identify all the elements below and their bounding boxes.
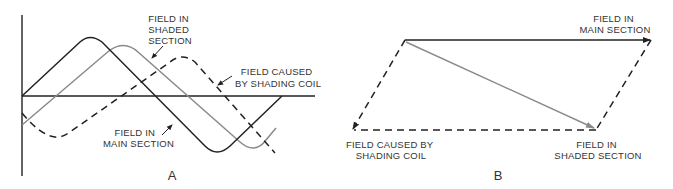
label-a-shaded: FIELD IN SHADED SECTION	[148, 13, 192, 46]
label-b-shaded: FIELD IN SHADED SECTION	[554, 139, 641, 161]
right-dashed-side	[596, 40, 651, 130]
shaded-leader	[152, 46, 163, 58]
caption-b: B	[494, 168, 503, 183]
label-a-main: FIELD IN MAIN SECTION	[103, 127, 174, 149]
main-leader	[162, 125, 172, 135]
shaded-vector	[406, 42, 594, 128]
coil-leader	[218, 76, 232, 85]
label-a-coil: FIELD CAUSED BY SHADING COIL	[235, 66, 321, 89]
diagram-b: FIELD IN MAIN SECTION FIELD CAUSED BY SH…	[346, 13, 651, 183]
diagram-a: FIELD IN SHADED SECTION FIELD CAUSED BY …	[22, 13, 321, 183]
label-b-main: FIELD IN MAIN SECTION	[579, 13, 650, 35]
shading-coil-diagrams: FIELD IN SHADED SECTION FIELD CAUSED BY …	[0, 0, 673, 189]
caption-a: A	[168, 168, 177, 183]
coil-vector	[353, 40, 405, 129]
label-b-coil: FIELD CAUSED BY SHADING COIL	[346, 139, 436, 161]
